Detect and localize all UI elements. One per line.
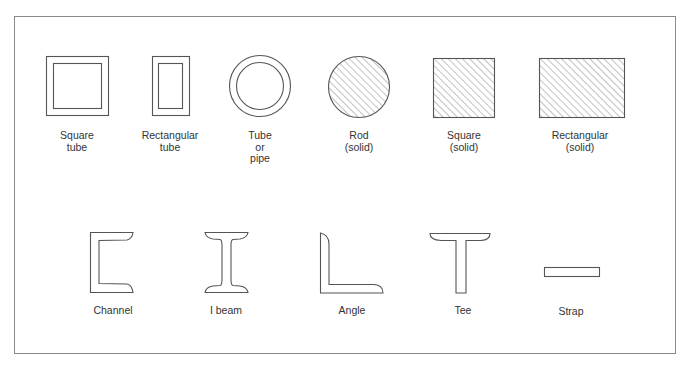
label-tube-pipe: Tube or pipe	[248, 130, 272, 165]
label-strap: Strap	[558, 306, 583, 318]
square-solid-shape	[434, 59, 495, 118]
channel-shape	[91, 233, 134, 293]
label-rod-solid: Rod (solid)	[345, 130, 374, 153]
label-tee: Tee	[455, 305, 472, 317]
label-square-solid: Square (solid)	[447, 130, 481, 153]
rod-solid-shape	[329, 57, 390, 118]
label-square-tube: Square tube	[60, 130, 94, 153]
label-rectangular-solid: Rectangular (solid)	[552, 130, 609, 153]
label-rectangular-tube: Rectangular tube	[142, 130, 199, 153]
angle-shape	[321, 233, 384, 293]
strap-shape	[545, 268, 600, 277]
label-i-beam: I beam	[210, 305, 242, 317]
label-channel: Channel	[93, 305, 132, 317]
tee-shape	[430, 234, 490, 294]
label-angle: Angle	[339, 305, 366, 317]
square-tube-shape	[47, 57, 109, 116]
rectangular-tube-shape	[153, 57, 190, 116]
rectangular-solid-shape	[540, 59, 625, 118]
i-beam-shape	[205, 233, 248, 293]
tube-pipe-shape	[230, 56, 291, 117]
